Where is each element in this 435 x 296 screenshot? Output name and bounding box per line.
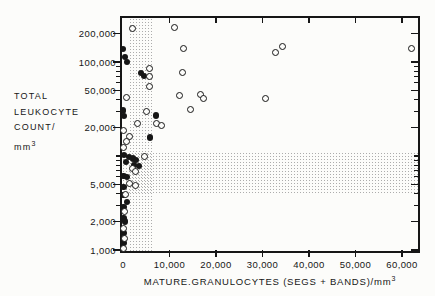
y-axis-unit-superscript: 3 xyxy=(31,140,36,147)
x-top-tick xyxy=(401,18,403,23)
y-tick-label: 1,000 xyxy=(54,245,116,256)
y-minor-tick xyxy=(116,71,120,72)
y-minor-tick xyxy=(116,76,120,77)
y-tick-label: 20,000 xyxy=(54,122,116,133)
y-minor-tick-right xyxy=(414,82,418,83)
y-major-tick-right xyxy=(411,249,418,251)
x-bottom-tick xyxy=(262,250,264,257)
data-point-open-circle xyxy=(132,168,139,175)
y-minor-tick-right xyxy=(414,176,418,177)
y-minor-tick-right xyxy=(414,193,418,194)
y-minor-tick xyxy=(116,155,120,156)
y-tick-label: 100,000 xyxy=(54,57,116,68)
y-minor-tick-right xyxy=(414,160,418,161)
y-major-tick-right xyxy=(411,61,418,63)
x-bottom-tick xyxy=(355,250,357,257)
data-point-open-circle xyxy=(121,208,128,215)
y-minor-tick xyxy=(116,165,120,166)
data-point-open-circle xyxy=(121,235,128,242)
y-minor-tick xyxy=(116,160,120,161)
y-tick-label: 2,000 xyxy=(54,216,116,227)
x-top-tick xyxy=(262,18,264,23)
x-top-tick xyxy=(169,18,171,23)
data-point-filled-circle xyxy=(147,134,154,141)
y-major-tick-right xyxy=(411,90,418,92)
y-tick-label: 5,000 xyxy=(54,179,116,190)
data-point-open-circle xyxy=(408,45,415,52)
y-major-tick-right xyxy=(411,221,418,223)
y-minor-tick-right xyxy=(414,155,418,156)
y-minor-tick xyxy=(116,205,120,206)
data-point-filled-circle xyxy=(153,112,160,119)
y-minor-tick xyxy=(116,176,120,177)
data-point-open-circle xyxy=(141,153,148,160)
data-point-open-circle xyxy=(120,127,127,134)
y-minor-tick-right xyxy=(414,205,418,206)
data-point-open-circle xyxy=(120,225,127,232)
y-minor-tick-right xyxy=(414,76,418,77)
x-axis-unit-superscript: 3 xyxy=(391,275,396,282)
y-minor-tick xyxy=(116,82,120,83)
x-bottom-tick xyxy=(308,250,310,257)
plot-frame xyxy=(120,16,420,253)
scatter-plot-figure: TOTAL LEUKOCYTE COUNT/ mm3 200,000100,00… xyxy=(0,0,435,296)
data-point-open-circle xyxy=(146,73,153,80)
data-point-open-circle xyxy=(272,49,279,56)
y-tick-label: 50,000 xyxy=(54,85,116,96)
data-point-open-circle xyxy=(179,69,186,76)
y-minor-tick-right xyxy=(414,111,418,112)
x-top-tick xyxy=(308,18,310,23)
data-point-open-circle xyxy=(143,108,150,115)
data-point-open-circle xyxy=(120,144,127,151)
x-tick-label: 60,000 xyxy=(372,259,432,270)
y-tick-label: 200,000 xyxy=(54,28,116,39)
y-minor-tick-right xyxy=(414,71,418,72)
y-minor-tick xyxy=(116,170,120,171)
data-point-open-circle xyxy=(146,83,153,90)
x-axis-title: MATURE.GRANULOCYTES (SEGS + BANDS)/mm3 xyxy=(120,275,420,287)
x-bottom-tick xyxy=(215,250,217,257)
data-point-open-circle xyxy=(132,182,139,189)
y-major-tick-right xyxy=(411,184,418,186)
y-major-tick-right xyxy=(411,33,418,35)
y-minor-tick xyxy=(116,99,120,100)
y-minor-tick-right xyxy=(414,170,418,171)
y-minor-tick-right xyxy=(414,66,418,67)
data-point-open-circle xyxy=(146,65,153,72)
x-bottom-tick xyxy=(401,250,403,257)
y-minor-tick-right xyxy=(414,99,418,100)
y-minor-tick-right xyxy=(414,165,418,166)
x-top-tick xyxy=(355,18,357,23)
x-bottom-tick xyxy=(169,250,171,257)
y-axis-title-unit: mm3 xyxy=(14,136,79,156)
y-axis-title-line: LEUKOCYTE xyxy=(14,105,79,121)
data-point-open-circle xyxy=(180,45,187,52)
x-top-tick xyxy=(215,18,217,23)
y-minor-tick xyxy=(116,66,120,67)
data-point-open-circle xyxy=(120,245,127,252)
normal-range-band-leukocytes xyxy=(122,152,418,193)
data-point-open-circle xyxy=(158,122,165,129)
y-major-tick-right xyxy=(411,127,418,129)
